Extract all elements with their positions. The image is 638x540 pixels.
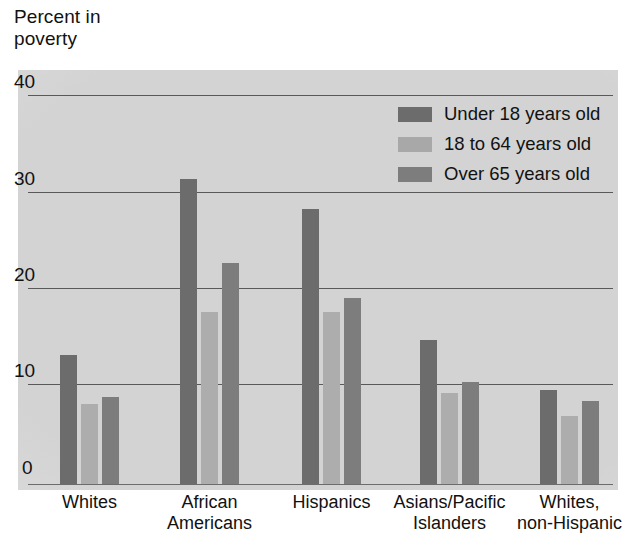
legend-label-18-to-64: 18 to 64 years old [444,134,591,154]
y-tick-label-10: 10 [14,361,35,380]
legend-item-over-65: Over 65 years old [398,160,628,188]
category-label: Whites, non-Hispanic [490,492,638,534]
plot-area: 40 30 20 10 0 WhitesAfrican AmericansHis… [0,0,638,540]
y-tick-label-40: 40 [14,72,35,91]
bar [561,416,578,484]
bar [201,312,218,484]
bar [222,263,239,484]
legend-swatch-icon-18-to-64 [398,137,432,152]
y-tick-label-20: 20 [14,265,35,284]
bar [81,404,98,484]
bar [102,397,119,484]
y-tick-label-30: 30 [14,169,35,188]
bar [60,355,77,484]
legend-label-under-18: Under 18 years old [444,104,600,124]
bar [420,340,437,484]
y-tick-label-0: 0 [22,458,33,477]
bar [462,382,479,484]
bar [180,179,197,484]
legend-swatch-icon-over-65 [398,167,432,182]
gridline-40 [28,95,613,96]
legend-item-18-to-64: 18 to 64 years old [398,130,628,158]
gridline-20 [28,288,613,289]
legend-label-over-65: Over 65 years old [444,164,590,184]
poverty-bar-chart: Percent in poverty 40 30 20 10 0 WhitesA… [0,0,638,540]
gridline-30 [28,192,613,193]
bar [441,393,458,484]
bar [540,390,557,484]
axis-baseline [28,484,613,485]
bar [582,401,599,484]
legend-swatch-icon-under-18 [398,107,432,122]
bar [344,298,361,484]
bar [323,312,340,484]
bar [302,209,319,484]
gridline-10 [28,384,613,385]
chart-legend: Under 18 years old 18 to 64 years old Ov… [398,100,628,190]
legend-item-under-18: Under 18 years old [398,100,628,128]
